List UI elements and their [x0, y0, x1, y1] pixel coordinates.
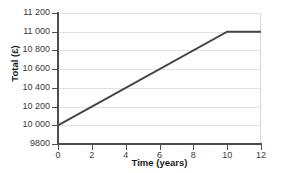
- y-axis-tick-label: 10 200: [2, 101, 50, 111]
- y-axis-tick: [52, 107, 57, 108]
- y-axis-tick: [52, 125, 57, 126]
- y-axis-tick-label: 10 000: [2, 119, 50, 129]
- y-axis-line: [57, 12, 59, 145]
- y-axis-tick: [52, 144, 57, 145]
- y-axis-tick-label: 9800: [2, 138, 50, 148]
- y-axis-tick-label: 10 400: [2, 82, 50, 92]
- x-axis-title: Time (years): [58, 157, 261, 168]
- y-axis-tick: [52, 13, 57, 14]
- y-axis-tick: [52, 69, 57, 70]
- plot-area: [58, 13, 261, 144]
- y-axis-tick-label: 10 600: [2, 63, 50, 73]
- y-axis-tick-label: 11 000: [2, 26, 50, 36]
- y-axis-tick: [52, 50, 57, 51]
- y-axis-tick: [52, 88, 57, 89]
- y-axis-tick: [52, 32, 57, 33]
- series-line-total: [58, 13, 261, 144]
- y-axis-tick-label: 10 800: [2, 44, 50, 54]
- y-axis-tick-label: 11 200: [2, 7, 50, 17]
- line-chart: Total (£) 980010 00010 20010 40010 60010…: [0, 0, 285, 173]
